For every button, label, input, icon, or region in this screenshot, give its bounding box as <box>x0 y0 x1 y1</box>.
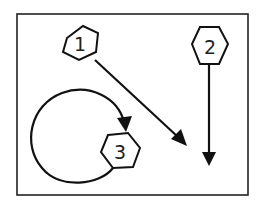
node-label-3: 3 <box>114 141 126 163</box>
diagram-canvas: 1 2 3 <box>0 0 261 206</box>
node-label-1: 1 <box>74 33 86 55</box>
node-label-2: 2 <box>204 36 216 58</box>
